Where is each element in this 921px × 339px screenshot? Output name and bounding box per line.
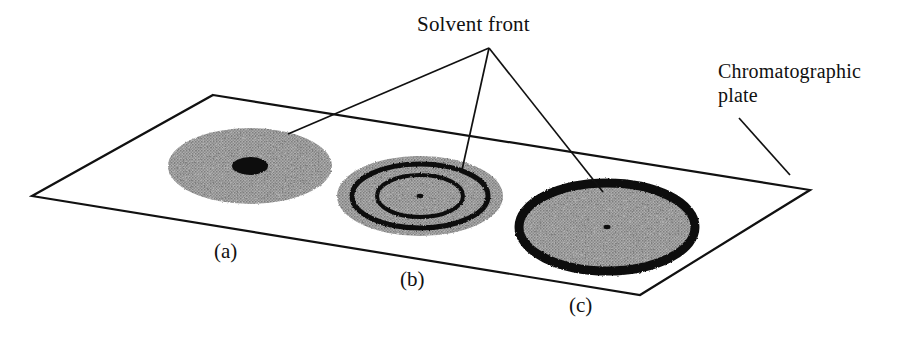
spot-a — [168, 128, 332, 204]
chromatography-figure: Solvent front Chromatographicplate (a) (… — [0, 0, 921, 339]
spot-a-label: (a) — [214, 239, 237, 264]
figure-canvas — [0, 0, 921, 339]
spot-c-label: (c) — [569, 293, 592, 318]
chromatographic-plate-label: Chromatographicplate — [718, 60, 861, 107]
spot-c — [519, 183, 695, 271]
spot-b-core — [417, 194, 424, 198]
spot-b — [337, 156, 503, 236]
spot-b-label: (b) — [400, 267, 425, 292]
chromatographic-plate-label-line1: Chromatographic — [718, 60, 861, 82]
spot-c-core — [604, 225, 611, 229]
chromatographic-plate-label-line2: plate — [718, 84, 758, 106]
leader-line-to-spot-a — [288, 48, 489, 134]
leader-line-to-plate — [739, 118, 790, 175]
spot-a-core — [232, 157, 268, 175]
solvent-front-label: Solvent front — [417, 12, 530, 37]
